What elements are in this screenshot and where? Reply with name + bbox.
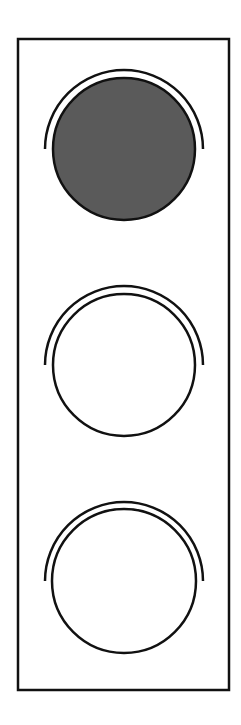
light-middle	[45, 286, 203, 436]
lamp-bottom-off	[52, 509, 196, 653]
lamp-middle-off	[53, 294, 195, 436]
light-bottom	[45, 502, 203, 653]
lights-group	[45, 70, 203, 653]
traffic-light-diagram	[0, 0, 241, 725]
lamp-top-on	[53, 78, 195, 220]
light-top	[45, 70, 203, 220]
